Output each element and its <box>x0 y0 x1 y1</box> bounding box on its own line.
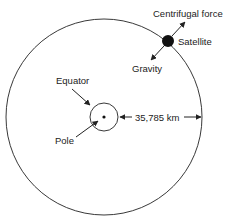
satellite-label: Satellite <box>178 36 212 47</box>
centrifugal-force-label: Centrifugal force <box>153 8 223 19</box>
equator-arrow <box>72 89 90 105</box>
pole-arrow <box>76 121 98 137</box>
pole-label: Pole <box>55 135 74 146</box>
equator-label: Equator <box>56 75 89 86</box>
pole-dot <box>102 115 105 118</box>
satellite-dot <box>162 35 174 47</box>
gravity-label: Gravity <box>132 63 162 74</box>
centrifugal-force-arrow <box>172 22 185 36</box>
gravity-arrow <box>151 46 164 60</box>
distance-label: 35,785 km <box>135 112 179 123</box>
geostationary-orbit-diagram: Centrifugal force Satellite Gravity Equa… <box>0 0 229 223</box>
